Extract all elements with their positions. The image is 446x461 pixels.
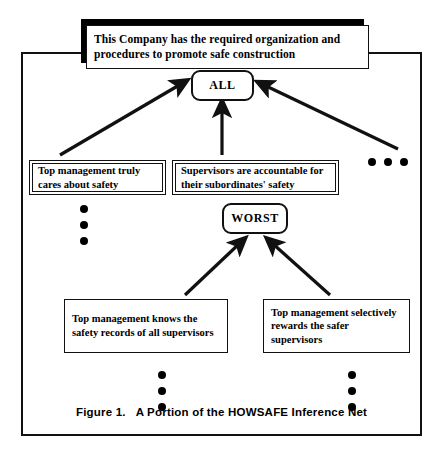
banner-text: This Company has the required organizati…: [87, 32, 368, 62]
ellipsis-dot: [348, 371, 356, 379]
ellipsis-dot: [368, 158, 376, 166]
ellipsis-dot: [400, 158, 408, 166]
ellipsis-dot: [158, 387, 166, 395]
evidence-text-selectively-rewards: Top management selectively rewards the s…: [266, 306, 407, 347]
evidence-text-top-management-cares: Top management truly cares about safety: [33, 164, 162, 191]
node-all: ALL: [191, 70, 254, 101]
evidence-text-supervisors-accountable: Supervisors are accountable for their su…: [176, 164, 335, 191]
figure-caption: Figure 1.A Portion of the HOWSAFE Infere…: [21, 406, 422, 418]
evidence-box-selectively-rewards: Top management selectively rewards the s…: [263, 299, 410, 353]
ellipsis-dot: [158, 371, 166, 379]
node-all-label: ALL: [209, 78, 235, 93]
ellipsis-dot: [384, 158, 392, 166]
ellipsis-dot: [80, 205, 88, 213]
banner-box: This Company has the required organizati…: [86, 25, 369, 69]
evidence-box-supervisors-accountable: Supervisors are accountable for their su…: [172, 160, 339, 195]
evidence-box-top-management-cares: Top management truly cares about safety: [29, 160, 166, 195]
figure-caption-number: Figure 1.: [76, 406, 126, 418]
ellipsis-dot: [348, 387, 356, 395]
evidence-text-knows-safety-records: Top management knows the safety records …: [67, 312, 225, 339]
figure-caption-title: A Portion of the HOWSAFE Inference Net: [136, 406, 367, 418]
figure-howsafe-inference-net: This Company has the required organizati…: [0, 0, 446, 461]
evidence-box-knows-safety-records: Top management knows the safety records …: [64, 299, 228, 353]
node-worst: WORST: [222, 203, 288, 234]
ellipsis-dot: [80, 221, 88, 229]
ellipsis-dot: [80, 237, 88, 245]
banner-hypothesis: This Company has the required organizati…: [86, 25, 369, 69]
node-worst-label: WORST: [231, 211, 279, 226]
